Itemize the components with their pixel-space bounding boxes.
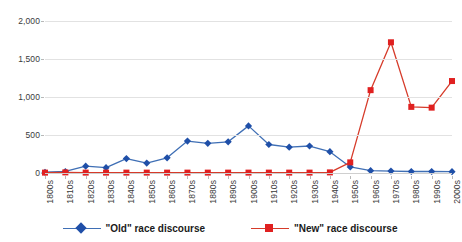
x-tick-label: 2000s — [452, 180, 462, 204]
gridline — [45, 21, 452, 22]
x-tick-mark — [208, 176, 209, 179]
legend-label-old: "Old" race discourse — [106, 223, 206, 234]
x-tick-label: 1930s — [310, 180, 320, 204]
series-old — [41, 122, 455, 176]
y-tick-mark — [41, 135, 44, 136]
diamond-marker-icon — [75, 222, 86, 233]
x-tick-mark — [350, 176, 351, 179]
y-tick-label: 0 — [35, 168, 40, 178]
y-tick-mark — [41, 59, 44, 60]
x-tick-mark — [269, 176, 270, 179]
x-tick-label: 1820s — [86, 180, 96, 204]
plot-area — [45, 21, 452, 173]
x-tick-label: 1920s — [289, 180, 299, 204]
gridline — [45, 59, 452, 60]
x-tick-mark — [371, 176, 372, 179]
data-point-diamond — [143, 160, 150, 167]
data-point-diamond — [286, 144, 293, 151]
x-tick-mark — [432, 176, 433, 179]
square-marker-icon — [265, 224, 273, 232]
y-tick-label: 500 — [26, 130, 40, 140]
x-tick-label: 1970s — [391, 180, 401, 204]
x-tick-mark — [411, 176, 412, 179]
x-tick-mark — [167, 176, 168, 179]
chart-legend: "Old" race discourse "New" race discours… — [0, 218, 460, 238]
data-point-square — [429, 105, 435, 111]
data-point-diamond — [408, 168, 415, 175]
x-tick-label: 1860s — [167, 180, 177, 204]
data-point-square — [347, 159, 353, 165]
x-tick-mark — [65, 176, 66, 179]
y-tick-mark — [41, 97, 44, 98]
x-tick-label: 1840s — [126, 180, 136, 204]
data-point-diamond — [123, 155, 130, 162]
y-axis: 05001,0001,5002,000 — [0, 0, 40, 242]
x-tick-mark — [45, 176, 46, 179]
x-tick-mark — [126, 176, 127, 179]
y-tick-mark — [41, 21, 44, 22]
legend-label-new: "New" race discourse — [294, 223, 397, 234]
x-tick-label: 1830s — [106, 180, 116, 204]
legend-entry-new[interactable]: "New" race discourse — [251, 222, 397, 234]
x-tick-mark — [106, 176, 107, 179]
x-tick-mark — [86, 176, 87, 179]
legend-swatch-new — [251, 222, 289, 234]
x-tick-mark — [228, 176, 229, 179]
x-tick-label: 1850s — [147, 180, 157, 204]
data-point-square — [368, 87, 374, 93]
x-tick-mark — [310, 176, 311, 179]
y-tick-label: 1,000 — [18, 92, 40, 102]
series-line — [45, 42, 452, 172]
x-tick-mark — [330, 176, 331, 179]
data-point-diamond — [306, 142, 313, 149]
y-tick-label: 1,500 — [18, 54, 40, 64]
x-tick-label: 1900s — [249, 180, 259, 204]
legend-swatch-old — [63, 222, 101, 234]
x-tick-label: 1870s — [187, 180, 197, 204]
x-tick-label: 1940s — [330, 180, 340, 204]
data-point-square — [449, 78, 455, 84]
data-point-diamond — [82, 163, 89, 170]
x-tick-label: 1980s — [411, 180, 421, 204]
legend-entry-old[interactable]: "Old" race discourse — [63, 222, 206, 234]
gridline — [45, 97, 452, 98]
x-tick-label: 1810s — [65, 180, 75, 204]
data-point-square — [408, 104, 414, 110]
x-tick-mark — [452, 176, 453, 179]
x-tick-label: 1800s — [45, 180, 55, 204]
x-tick-mark — [391, 176, 392, 179]
data-point-diamond — [428, 168, 435, 175]
data-point-square — [388, 39, 394, 45]
x-axis: 1800s1810s1820s1830s1840s1850s1860s1870s… — [45, 176, 452, 216]
data-point-diamond — [204, 140, 211, 147]
gridline — [45, 173, 452, 174]
x-tick-label: 1950s — [350, 180, 360, 204]
x-tick-label: 1890s — [228, 180, 238, 204]
x-tick-label: 1960s — [371, 180, 381, 204]
x-tick-label: 1880s — [208, 180, 218, 204]
data-point-diamond — [448, 168, 455, 175]
x-tick-mark — [249, 176, 250, 179]
gridline — [45, 135, 452, 136]
x-tick-label: 1910s — [269, 180, 279, 204]
x-tick-label: 1990s — [432, 180, 442, 204]
x-tick-mark — [187, 176, 188, 179]
x-tick-mark — [147, 176, 148, 179]
x-tick-mark — [289, 176, 290, 179]
y-tick-label: 2,000 — [18, 16, 40, 26]
